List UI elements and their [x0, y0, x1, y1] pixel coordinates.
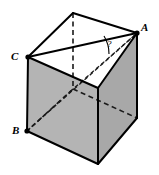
- vertex-dot-a: [134, 30, 139, 35]
- label-vertex-a: A: [140, 21, 148, 33]
- label-vertex-b: B: [11, 124, 19, 136]
- cube-diagram-svg: A B C ?: [0, 0, 159, 175]
- edge-c-to-b: [27, 57, 28, 131]
- cube-figure: A B C ?: [0, 0, 159, 175]
- vertex-dot-b: [24, 128, 29, 133]
- label-vertex-c: C: [11, 50, 19, 62]
- label-unknown-angle: ?: [107, 39, 112, 49]
- vertex-dot-c: [25, 54, 30, 59]
